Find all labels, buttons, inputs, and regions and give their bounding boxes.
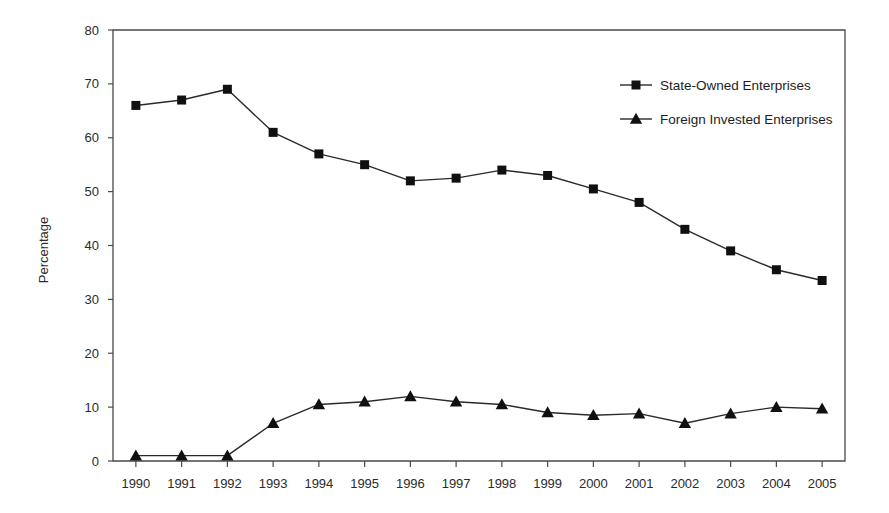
x-tick-label: 2001 xyxy=(625,476,654,491)
x-tick-label: 1993 xyxy=(259,476,288,491)
x-tick-label: 2003 xyxy=(716,476,745,491)
y-tick-label: 20 xyxy=(85,346,99,361)
data-series-layer xyxy=(130,85,829,461)
chart-container: 01020304050607080 1990199119921993199419… xyxy=(0,0,889,513)
data-point-marker xyxy=(726,246,735,255)
data-point-marker xyxy=(269,128,278,137)
data-point-marker xyxy=(589,184,598,193)
y-tick-label: 50 xyxy=(85,184,99,199)
series-foreign-invested xyxy=(130,390,829,460)
line-chart: 01020304050607080 1990199119921993199419… xyxy=(0,0,889,513)
series-line xyxy=(136,396,822,455)
data-point-marker xyxy=(314,149,323,158)
x-tick-label: 1991 xyxy=(167,476,196,491)
data-point-marker xyxy=(360,160,369,169)
y-tick-label: 40 xyxy=(85,238,99,253)
x-tick-label: 1997 xyxy=(442,476,471,491)
x-tick-label: 1998 xyxy=(487,476,516,491)
data-point-marker xyxy=(680,225,689,234)
x-axis-tick-labels: 1990199119921993199419951996199719981999… xyxy=(121,476,836,491)
y-axis-title: Percentage xyxy=(36,217,51,284)
data-point-marker xyxy=(543,171,552,180)
x-tick-label: 2004 xyxy=(762,476,791,491)
data-point-marker xyxy=(223,85,232,94)
y-tick-label: 80 xyxy=(85,23,99,38)
y-tick-label: 10 xyxy=(85,400,99,415)
legend-label: Foreign Invested Enterprises xyxy=(660,112,833,127)
data-point-marker xyxy=(633,407,645,418)
legend-entry: Foreign Invested Enterprises xyxy=(620,112,833,127)
x-tick-label: 1992 xyxy=(213,476,242,491)
x-tick-label: 1994 xyxy=(304,476,333,491)
chart-legend: State-Owned EnterprisesForeign Invested … xyxy=(620,78,833,127)
y-tick-label: 70 xyxy=(85,76,99,91)
x-tick-label: 2000 xyxy=(579,476,608,491)
y-axis-tick-marks xyxy=(108,30,113,461)
x-tick-label: 1996 xyxy=(396,476,425,491)
y-axis-tick-labels: 01020304050607080 xyxy=(85,23,99,469)
data-point-marker xyxy=(131,101,140,110)
legend-label: State-Owned Enterprises xyxy=(660,78,811,93)
plot-frame xyxy=(113,30,845,461)
data-point-marker xyxy=(635,198,644,207)
data-point-marker xyxy=(406,176,415,185)
legend-marker xyxy=(632,81,641,90)
x-tick-label: 1995 xyxy=(350,476,379,491)
data-point-marker xyxy=(404,390,416,401)
data-point-marker xyxy=(770,401,782,412)
x-axis-tick-marks xyxy=(136,461,822,467)
data-point-marker xyxy=(177,96,186,105)
data-point-marker xyxy=(772,265,781,274)
x-tick-label: 2005 xyxy=(808,476,837,491)
x-tick-label: 1990 xyxy=(121,476,150,491)
data-point-marker xyxy=(267,417,279,428)
y-tick-label: 0 xyxy=(92,454,99,469)
data-point-marker xyxy=(818,276,827,285)
x-tick-label: 1999 xyxy=(533,476,562,491)
x-tick-label: 2002 xyxy=(670,476,699,491)
y-tick-label: 30 xyxy=(85,292,99,307)
y-tick-label: 60 xyxy=(85,130,99,145)
data-point-marker xyxy=(452,174,461,183)
legend-entry: State-Owned Enterprises xyxy=(620,78,811,93)
data-point-marker xyxy=(497,166,506,175)
